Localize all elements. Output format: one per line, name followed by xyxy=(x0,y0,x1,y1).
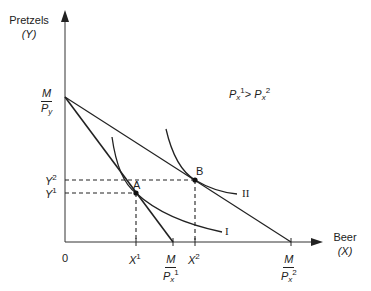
curve-I-label: I xyxy=(225,226,229,237)
x-intercept-1-den-sup: 1 xyxy=(174,268,178,277)
y-axis-title: Pretzels (Y) xyxy=(9,15,49,40)
cond-op: > xyxy=(245,88,251,100)
y-axis-variable: (Y) xyxy=(9,29,49,40)
x-intercept-2-den: Px2 xyxy=(281,268,297,284)
x-intercept-2-den-sup: 2 xyxy=(292,268,296,277)
diagram-canvas xyxy=(0,0,371,291)
y2-sup: 2 xyxy=(52,173,56,182)
x2-sup: 2 xyxy=(195,252,199,261)
x-intercept-1-den: Px1 xyxy=(163,268,179,284)
curve-II-label: II xyxy=(242,188,249,199)
point-A-label: A xyxy=(133,180,140,191)
x1-label: X1 xyxy=(129,253,141,266)
point-B-marker xyxy=(192,177,197,182)
budget-line-1 xyxy=(65,97,173,242)
indifference-curve-I xyxy=(112,137,222,232)
y1-sup: 1 xyxy=(52,186,56,195)
x-intercept-1-num: M xyxy=(165,254,176,268)
y1-label: Y1 xyxy=(45,187,57,200)
point-B-label: B xyxy=(196,166,203,177)
origin-label: 0 xyxy=(62,253,68,264)
x-intercept-2-num: M xyxy=(283,254,294,268)
y-intercept-den: Py xyxy=(41,102,52,116)
x-axis-variable: (X) xyxy=(330,246,360,257)
point-A-marker xyxy=(133,190,138,195)
x1-sup: 1 xyxy=(136,252,140,261)
y-axis-label: Pretzels xyxy=(9,15,49,26)
x-axis-label: Beer xyxy=(330,232,360,243)
x-axis-title: Beer (X) xyxy=(330,232,360,257)
budget-line-2 xyxy=(65,97,291,242)
x-axis-arrow-icon xyxy=(311,238,323,246)
y-intercept-label: M Py xyxy=(41,88,52,116)
price-condition: Px1> Px2 xyxy=(229,87,270,102)
x-intercept-2-label: M Px2 xyxy=(281,254,297,284)
y-intercept-num: M xyxy=(41,88,52,102)
y-axis-arrow-icon xyxy=(61,10,69,22)
indifference-curve-II xyxy=(166,129,237,194)
cond-right-sup: 2 xyxy=(266,86,270,95)
cond-right-p: P xyxy=(254,88,261,100)
x-intercept-1-label: M Px1 xyxy=(163,254,179,284)
x2-label: X2 xyxy=(188,253,200,266)
y-intercept-den-sub: y xyxy=(48,107,52,116)
